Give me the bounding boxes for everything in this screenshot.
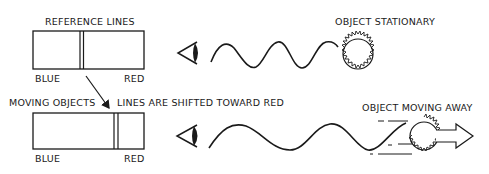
light-wave-long (209, 123, 406, 150)
red-label-bottom: RED (124, 154, 145, 164)
eye-icon (178, 42, 198, 64)
sun-icon (409, 114, 440, 151)
moving-objects-label: MOVING OBJECTS (9, 98, 95, 108)
motion-lines (370, 121, 414, 154)
arrow-right-icon (436, 124, 473, 148)
blue-label-bottom: BLUE (35, 154, 60, 164)
eye-icon (177, 125, 198, 147)
lines-shifted-label: LINES ARE SHIFTED TOWARD RED (117, 98, 284, 108)
shifted-spectrum-box (33, 113, 144, 149)
sun-icon (342, 31, 374, 69)
blue-label-top: BLUE (35, 74, 60, 84)
reference-lines-label: REFERENCE LINES (45, 17, 135, 27)
object-moving-away-label: OBJECT MOVING AWAY (362, 103, 473, 113)
object-stationary-label: OBJECT STATIONARY (335, 17, 435, 27)
reference-spectrum-box (33, 31, 144, 69)
red-label-top: RED (124, 74, 145, 84)
light-wave-short (211, 42, 338, 68)
